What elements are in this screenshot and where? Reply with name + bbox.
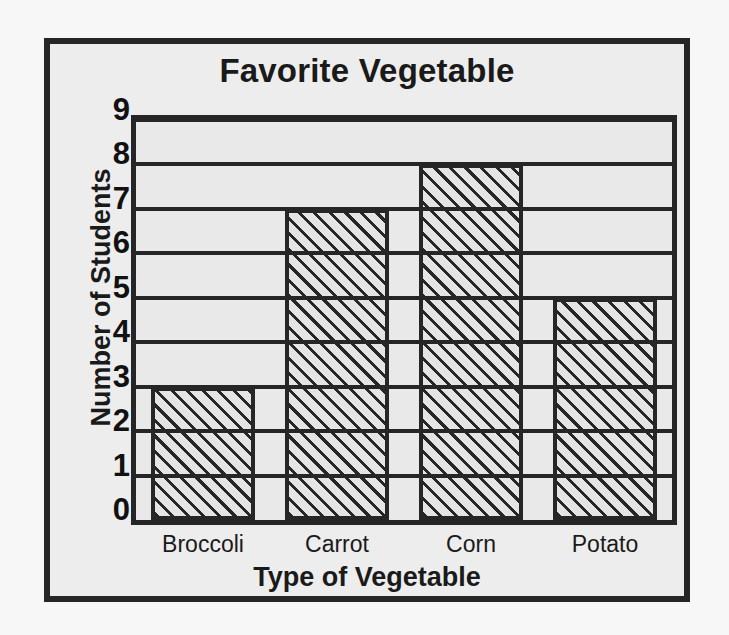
y-tick-label-3: 3 — [94, 360, 130, 391]
plot-inner — [136, 120, 672, 520]
y-tick-label-8: 8 — [94, 138, 130, 169]
chart-title: Favorite Vegetable — [50, 52, 684, 90]
gridline-2 — [136, 429, 672, 433]
gridline-6 — [136, 251, 672, 255]
y-tick-label-4: 4 — [94, 316, 130, 347]
x-tick-label-corn: Corn — [446, 531, 496, 558]
y-tick-label-2: 2 — [94, 405, 130, 436]
gridline-7 — [136, 207, 672, 211]
bar-potato — [553, 298, 657, 520]
y-axis-tick-labels: 0123456789 — [94, 104, 130, 514]
x-tick-label-carrot: Carrot — [305, 531, 369, 558]
gridline-3 — [136, 385, 672, 389]
y-tick-label-7: 7 — [94, 182, 130, 213]
y-tick-label-9: 9 — [94, 94, 130, 125]
chart-frame: Favorite Vegetable Number of Students 01… — [44, 38, 690, 602]
x-axis-tick-labels: BroccoliCarrotCornPotato — [131, 531, 677, 563]
plot-area — [131, 115, 677, 525]
gridline-5 — [136, 296, 672, 300]
gridline-4 — [136, 340, 672, 344]
x-tick-label-potato: Potato — [572, 531, 639, 558]
bar-broccoli — [151, 387, 255, 520]
y-tick-label-5: 5 — [94, 271, 130, 302]
x-tick-label-broccoli: Broccoli — [162, 531, 244, 558]
x-axis-title: Type of Vegetable — [50, 562, 684, 593]
y-tick-label-0: 0 — [94, 494, 130, 525]
gridline-1 — [136, 474, 672, 478]
y-tick-label-6: 6 — [94, 227, 130, 258]
gridline-8 — [136, 162, 672, 166]
y-tick-label-1: 1 — [94, 449, 130, 480]
gridline-9 — [136, 118, 672, 122]
